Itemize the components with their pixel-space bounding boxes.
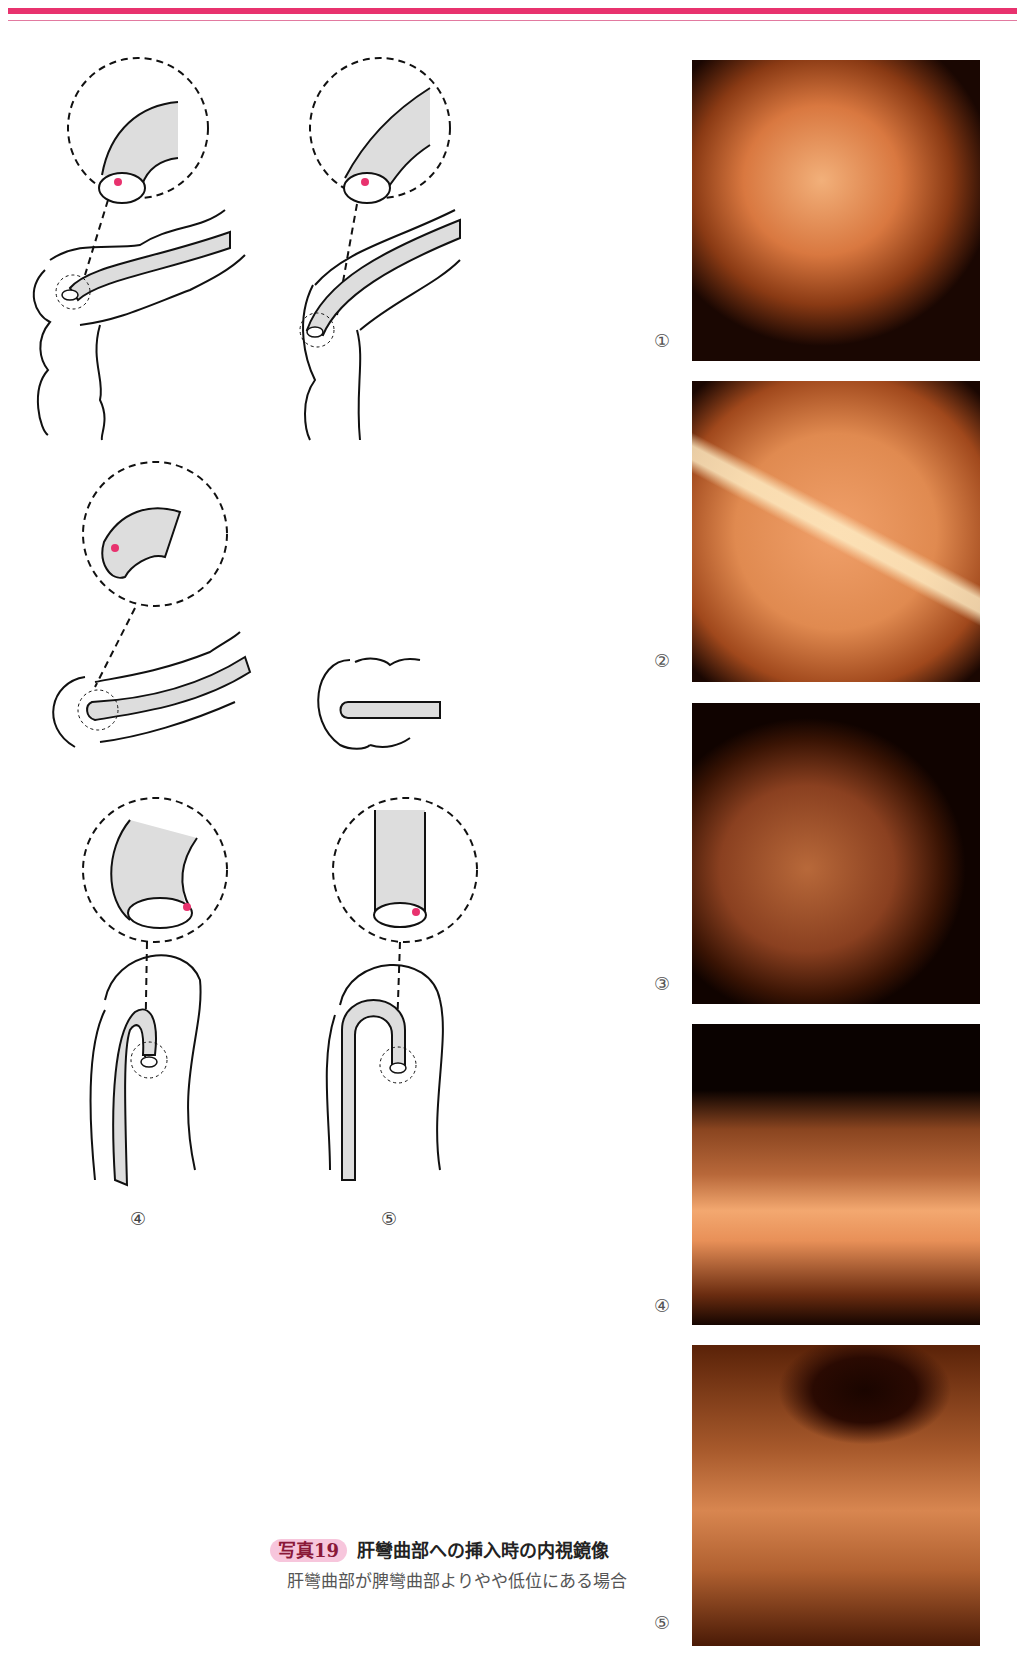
- endoscopy-photo-2: [692, 381, 980, 682]
- caption-badge: 写真19: [270, 1539, 347, 1562]
- endoscopy-photo-4: [692, 1024, 980, 1325]
- photo-label-3: ③: [654, 973, 670, 994]
- diagram-1: [30, 60, 270, 440]
- photo-label-4: ④: [654, 1295, 670, 1316]
- photo-label-2: ②: [654, 650, 670, 671]
- endoscopy-photo-3: [692, 703, 980, 1004]
- header-rule-thin: [8, 20, 1017, 21]
- diagram-2: [285, 60, 495, 440]
- figure-caption: 写真19肝彎曲部への挿入時の内視鏡像 肝彎曲部が脾彎曲部よりやや低位にある場合: [270, 1536, 650, 1596]
- caption-title: 肝彎曲部への挿入時の内視鏡像: [357, 1540, 609, 1561]
- header-rule-thick: [8, 8, 1017, 14]
- diagram-4: [310, 650, 440, 760]
- diagram-label-5: ⑤: [381, 1208, 397, 1229]
- diagram-6: [320, 790, 490, 1190]
- photo-label-1: ①: [654, 330, 670, 351]
- endoscopy-photo-5: [692, 1345, 980, 1646]
- diagram-3: [40, 452, 270, 752]
- diagram-label-4: ④: [130, 1208, 146, 1229]
- caption-body: 肝彎曲部が脾彎曲部よりやや低位にある場合: [270, 1566, 650, 1596]
- diagram-5: [75, 790, 245, 1190]
- caption-title-line: 写真19肝彎曲部への挿入時の内視鏡像: [270, 1536, 650, 1562]
- photo-label-5: ⑤: [654, 1612, 670, 1633]
- endoscopy-photo-1: [692, 60, 980, 361]
